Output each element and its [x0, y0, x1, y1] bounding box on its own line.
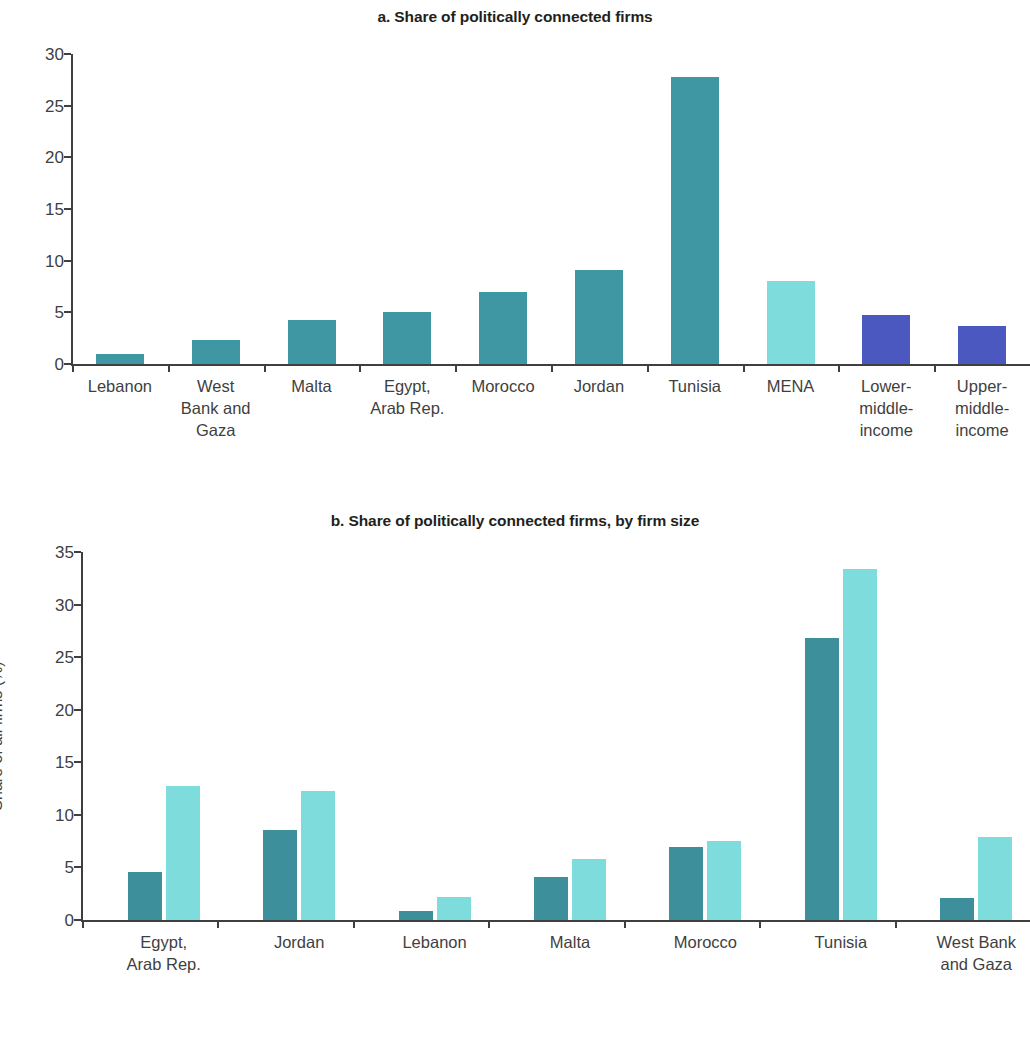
- y-tick-label: 20: [45, 149, 64, 166]
- y-tick-label: 25: [45, 97, 64, 114]
- panel-a-bars: [72, 54, 1030, 364]
- bar: [288, 320, 336, 364]
- bar: [263, 830, 297, 920]
- y-tick-mark: [64, 363, 71, 365]
- panel-b-title: b. Share of politically connected firms,…: [0, 490, 1030, 530]
- y-tick-label: 25: [55, 649, 74, 666]
- y-tick-label: 10: [45, 252, 64, 269]
- bar: [669, 847, 703, 920]
- bar: [399, 911, 433, 920]
- x-tick-mark: [264, 364, 266, 372]
- y-tick-mark: [74, 551, 81, 553]
- y-tick-mark: [74, 709, 81, 711]
- y-tick-label: 30: [55, 596, 74, 613]
- bar: [96, 354, 144, 364]
- y-tick-mark: [74, 761, 81, 763]
- bar: [534, 877, 568, 920]
- x-tick-mark: [168, 364, 170, 372]
- bar: [192, 340, 240, 364]
- bar: [437, 897, 471, 920]
- chart-panel-a: a. Share of politically connected firms …: [0, 0, 1030, 490]
- y-tick-mark: [64, 105, 71, 107]
- bar: [862, 315, 910, 364]
- x-tick-mark: [217, 920, 219, 928]
- bar: [671, 77, 719, 364]
- bar: [958, 326, 1006, 364]
- x-tick-mark: [838, 364, 840, 372]
- x-tick-mark: [647, 364, 649, 372]
- y-tick-label: 15: [55, 754, 74, 771]
- y-tick-label: 0: [65, 912, 74, 929]
- y-tick-mark: [64, 311, 71, 313]
- x-tick-mark: [455, 364, 457, 372]
- y-tick-label: 15: [45, 201, 64, 218]
- y-tick-mark: [74, 814, 81, 816]
- y-tick-mark: [64, 208, 71, 210]
- bar: [166, 786, 200, 920]
- x-tick-label: Upper- middle- income: [924, 376, 1030, 441]
- x-tick-mark: [759, 920, 761, 928]
- x-tick-mark: [488, 920, 490, 928]
- panel-b-bars: [82, 552, 1030, 920]
- bar: [575, 270, 623, 364]
- x-tick-mark: [359, 364, 361, 372]
- x-tick-mark: [551, 364, 553, 372]
- y-tick-mark: [74, 656, 81, 658]
- y-tick-label: 10: [55, 806, 74, 823]
- y-tick-mark: [74, 604, 81, 606]
- bar: [707, 841, 741, 920]
- panel-b-y-tick-labels: 05101520253035: [28, 552, 74, 920]
- x-tick-mark: [353, 920, 355, 928]
- y-tick-label: 0: [55, 356, 64, 373]
- bar: [767, 281, 815, 364]
- bar: [843, 569, 877, 920]
- x-tick-label: West Bank and Gaza: [897, 932, 1030, 976]
- y-tick-label: 35: [55, 544, 74, 561]
- y-tick-mark: [74, 919, 81, 921]
- x-tick-mark: [934, 364, 936, 372]
- y-tick-mark: [64, 260, 71, 262]
- x-tick-mark: [624, 920, 626, 928]
- panel-b-y-axis-label: Share of all firms (%): [0, 661, 6, 810]
- panel-a-y-tick-labels: 051015202530: [18, 54, 64, 364]
- bar: [940, 898, 974, 920]
- x-tick-mark: [72, 364, 74, 372]
- bar: [383, 312, 431, 364]
- panel-b-plot-area: Share of all firms (%) 05101520253035 Eg…: [0, 530, 1030, 1030]
- chart-panel-b: b. Share of politically connected firms,…: [0, 490, 1030, 1048]
- bar: [978, 837, 1012, 920]
- bar: [805, 638, 839, 920]
- x-tick-mark: [895, 920, 897, 928]
- panel-b-x-axis-line: [81, 920, 1030, 922]
- x-tick-mark: [82, 920, 84, 928]
- bar: [128, 872, 162, 920]
- bar: [572, 859, 606, 920]
- panel-a-plot-area: Share of all firms (%) 051015202530 Leba…: [0, 26, 1030, 484]
- y-tick-label: 5: [65, 859, 74, 876]
- y-tick-mark: [64, 53, 71, 55]
- bar: [301, 791, 335, 920]
- x-tick-mark: [743, 364, 745, 372]
- y-tick-label: 30: [45, 46, 64, 63]
- y-tick-label: 20: [55, 701, 74, 718]
- y-tick-mark: [74, 866, 81, 868]
- panel-a-title: a. Share of politically connected firms: [0, 0, 1030, 26]
- bar: [479, 292, 527, 364]
- y-tick-mark: [64, 156, 71, 158]
- y-tick-label: 5: [55, 304, 64, 321]
